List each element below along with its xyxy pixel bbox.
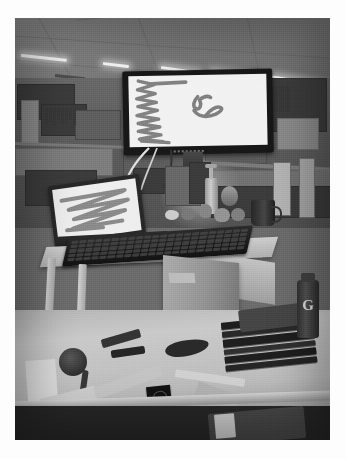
monitor-screen[interactable] <box>128 74 267 148</box>
gatorade-bottle: G <box>297 280 319 338</box>
coffee-mug <box>251 200 275 226</box>
desk-toy <box>181 208 195 220</box>
desk-toy <box>214 208 230 222</box>
laptop-label: open laptop <box>48 186 49 187</box>
cubicle-panel <box>277 118 319 150</box>
binder-row <box>45 108 76 125</box>
cubicle-post <box>299 158 315 218</box>
desk-toy <box>199 204 212 218</box>
mug-handle <box>271 206 282 223</box>
photo-caption: Grainy black and white photo of a cubicl… <box>0 0 1 1</box>
cubicle-panel <box>21 100 39 146</box>
desk-toy <box>221 186 238 206</box>
bottle-cap <box>301 273 315 282</box>
desk-toy <box>231 208 245 221</box>
monitor-scribble-drawing <box>128 74 267 148</box>
box-handle-cutout <box>169 273 196 283</box>
monitor-label: widescreen desktop monitor <box>122 71 123 72</box>
desktop-monitor[interactable]: widescreen desktop monitor <box>122 69 274 156</box>
pump-head <box>205 164 217 168</box>
keyboard-label: full size black keyboard <box>68 238 69 239</box>
pump-neck <box>209 167 213 179</box>
gatorade-logo: G <box>297 298 319 313</box>
cubicle-panel <box>75 110 121 140</box>
floor-paper <box>214 413 236 439</box>
desk-photograph: drop ceiling tiles <box>15 18 330 440</box>
screenshot-root: drop ceiling tiles <box>0 0 346 459</box>
office-background-label: open plan office cubicles <box>15 78 16 79</box>
